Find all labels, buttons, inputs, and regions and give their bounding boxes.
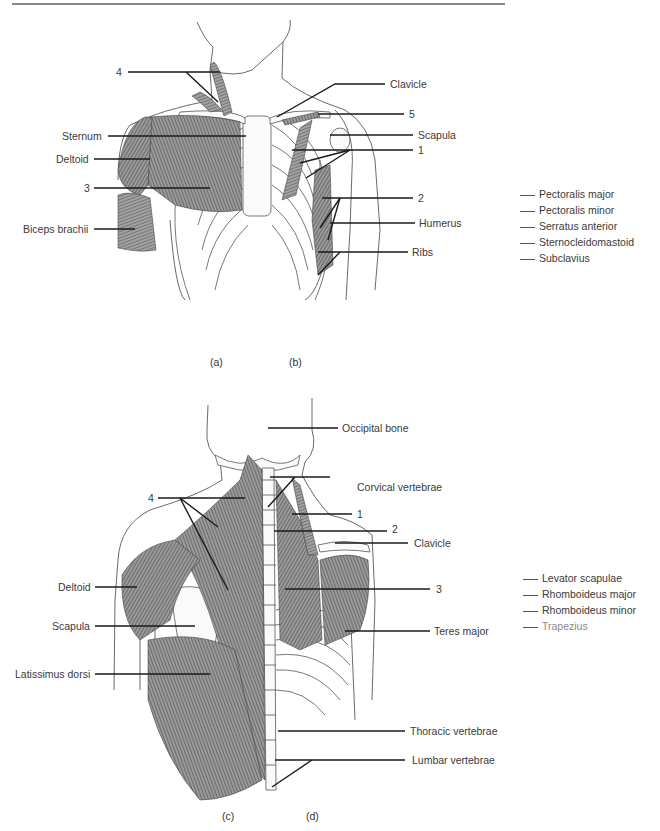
label-number-4-top: 4 (116, 66, 122, 78)
muscles-anterior (118, 62, 333, 275)
label-clavicle-top: Clavicle (390, 78, 427, 90)
label-biceps-brachii: Biceps brachii (23, 223, 88, 235)
word-bank-item: Serratus anterior (520, 218, 634, 234)
word-bank-top: Pectoralis major Pectoralis minor Serrat… (520, 186, 634, 266)
word-bank-item: Pectoralis major (520, 186, 634, 202)
answer-blank[interactable] (523, 611, 538, 612)
label-number-1-top: 1 (418, 144, 424, 156)
caption-c: (c) (222, 810, 234, 822)
label-number-1-bottom: 1 (357, 508, 363, 520)
label-ribs: Ribs (412, 246, 433, 258)
word-bank-bottom: Levator scapulae Rhomboideus major Rhomb… (523, 570, 636, 634)
caption-d: (d) (306, 810, 319, 822)
label-humerus: Humerus (419, 217, 462, 229)
word-bank-item: Pectoralis minor (520, 202, 634, 218)
caption-a: (a) (210, 356, 223, 368)
label-latissimus-dorsi: Latissimus dorsi (15, 668, 90, 680)
label-number-2-top: 2 (418, 192, 424, 204)
label-teres-major: Teres major (434, 625, 489, 637)
answer-blank[interactable] (520, 259, 535, 260)
answer-blank[interactable] (523, 579, 538, 580)
word-bank-item: Trapezius (523, 618, 636, 634)
muscles-posterior (122, 455, 369, 800)
answer-blank[interactable] (520, 243, 535, 244)
anatomy-illustration (0, 0, 660, 831)
label-number-4-bottom: 4 (148, 492, 154, 504)
label-number-3-top: 3 (84, 182, 90, 194)
answer-blank[interactable] (520, 227, 535, 228)
label-scapula-top: Scapula (418, 129, 456, 141)
word-bank-item: Rhomboideus major (523, 586, 636, 602)
label-sternum: Sternum (62, 130, 102, 142)
label-number-2-bottom: 2 (392, 523, 398, 535)
label-deltoid-bottom: Deltoid (58, 581, 91, 593)
answer-blank[interactable] (520, 195, 535, 196)
answer-blank[interactable] (523, 627, 538, 628)
caption-b: (b) (289, 356, 302, 368)
label-clavicle-bottom: Clavicle (414, 537, 451, 549)
label-number-5-top: 5 (409, 108, 415, 120)
answer-blank[interactable] (520, 211, 535, 212)
word-bank-item: Rhomboideus minor (523, 602, 636, 618)
word-bank-item: Subclavius (520, 250, 634, 266)
label-scapula-bottom: Scapula (52, 620, 90, 632)
label-thoracic-vertebrae: Thoracic vertebrae (410, 725, 498, 737)
label-deltoid-top: Deltoid (56, 153, 89, 165)
word-bank-item: Levator scapulae (523, 570, 636, 586)
label-occipital-bone: Occipital bone (342, 422, 409, 434)
label-lumbar-vertebrae: Lumbar vertebrae (412, 754, 495, 766)
word-bank-item: Sternocleidomastoid (520, 234, 634, 250)
label-cervical-vertebrae: Corvical vertebrae (357, 481, 442, 493)
label-number-3-bottom: 3 (436, 583, 442, 595)
answer-blank[interactable] (523, 595, 538, 596)
